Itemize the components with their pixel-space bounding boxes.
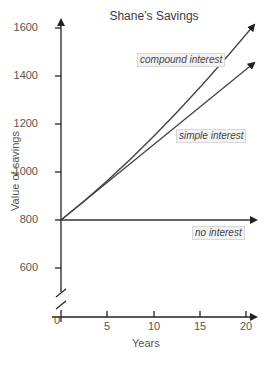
label-compound-interest: compound interest [137,53,225,67]
y-tick-label: 1400 [4,69,38,81]
y-tick-label: 1000 [4,165,38,177]
y-tick-label: 1200 [4,117,38,129]
label-simple-interest: simple interest [176,129,246,143]
x-tick-label: 10 [144,320,164,332]
y-tick-label: 1600 [4,21,38,33]
x-tick-label: 0 [47,314,67,326]
y-tick-label: 600 [4,261,38,273]
chart-canvas [0,0,270,365]
label-no-interest: no interest [192,226,245,240]
x-tick-label: 5 [97,320,117,332]
x-tick-label: 15 [190,320,210,332]
x-tick-label: 20 [236,320,256,332]
x-axis-label: Years [132,337,160,349]
chart-title: Shane’s Savings [0,9,270,23]
y-tick-label: 800 [4,213,38,225]
